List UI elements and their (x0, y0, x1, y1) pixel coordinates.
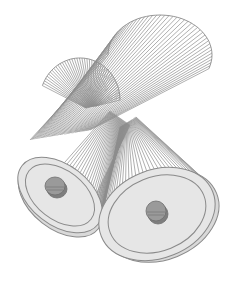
twisted-string-hyperboloid-illustration (0, 0, 229, 284)
illustration-canvas (0, 0, 229, 284)
right-disc (85, 151, 229, 279)
